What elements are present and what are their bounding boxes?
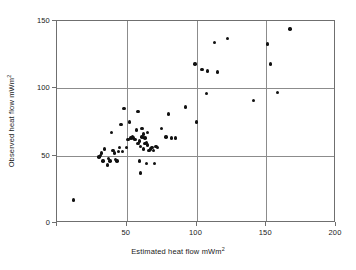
data-point (170, 136, 173, 139)
data-point (206, 69, 209, 72)
data-point (145, 162, 148, 165)
data-point (140, 127, 143, 130)
data-point (119, 123, 122, 126)
y-tick-0 (52, 222, 56, 223)
data-point (160, 127, 163, 130)
data-point (288, 27, 291, 30)
data-point (106, 163, 109, 166)
data-point (101, 159, 104, 162)
data-point (115, 159, 118, 162)
gridline-x-150 (266, 21, 267, 221)
data-point (226, 37, 229, 40)
data-point (153, 162, 156, 165)
data-point (174, 136, 177, 139)
data-point (118, 146, 121, 149)
data-point (200, 68, 203, 71)
gridline-y-100 (57, 88, 334, 89)
data-point (103, 147, 106, 150)
data-point (100, 151, 103, 154)
x-tick-label-50: 50 (121, 228, 130, 237)
x-tick-200 (335, 222, 336, 226)
x-tick-100 (196, 222, 197, 226)
data-point (269, 62, 272, 65)
x-tick-150 (265, 222, 266, 226)
data-point (252, 99, 255, 102)
data-point (136, 110, 139, 113)
data-point (164, 135, 167, 138)
plot-area (56, 20, 335, 222)
data-point (117, 150, 120, 153)
data-point (193, 62, 196, 65)
data-point (128, 120, 131, 123)
data-point (146, 131, 149, 134)
data-point (213, 41, 216, 44)
data-point (216, 70, 219, 73)
data-point (167, 112, 170, 115)
data-point (276, 91, 279, 94)
data-point (152, 149, 155, 152)
data-point (122, 107, 125, 110)
data-point (121, 150, 124, 153)
y-tick-label-0: 0 (22, 218, 50, 227)
data-point (138, 139, 141, 142)
data-point (266, 42, 269, 45)
data-point (135, 128, 138, 131)
data-point (195, 120, 198, 123)
scatter-plot-figure: Estimated heat flow mWm2 Observed heat f… (0, 0, 356, 270)
data-point (133, 138, 136, 141)
data-point (72, 198, 75, 201)
x-tick-label-100: 100 (189, 228, 202, 237)
data-point (143, 136, 146, 139)
data-point (108, 159, 111, 162)
data-point (139, 171, 142, 174)
data-point (125, 146, 128, 149)
data-point (113, 151, 116, 154)
x-axis-title: Estimated heat flow mWm2 (0, 247, 356, 256)
x-tick-50 (126, 222, 127, 226)
data-point (184, 105, 187, 108)
y-tick-label-50: 50 (22, 150, 50, 159)
data-point (142, 147, 145, 150)
x-tick-0 (56, 222, 57, 226)
data-point (110, 131, 113, 134)
data-point (142, 132, 145, 135)
data-point (146, 143, 149, 146)
x-tick-label-150: 150 (259, 228, 272, 237)
data-point (205, 92, 208, 95)
y-tick-label-150: 150 (22, 16, 50, 25)
y-tick-50 (52, 155, 56, 156)
y-axis-title: Observed heat flow mWm2 (7, 75, 16, 168)
x-tick-label-200: 200 (328, 228, 341, 237)
data-point (138, 159, 141, 162)
y-tick-100 (52, 87, 56, 88)
y-tick-label-100: 100 (22, 83, 50, 92)
data-point (156, 146, 159, 149)
y-tick-150 (52, 20, 56, 21)
